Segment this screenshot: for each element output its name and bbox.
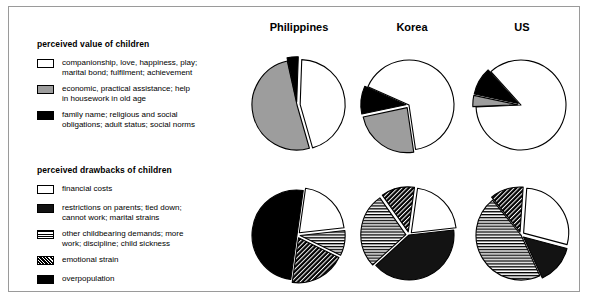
figure-frame: perceived value of children companionshi… [8, 6, 580, 292]
legend-label-family-name: family name; religious and social obliga… [62, 110, 195, 129]
legend-label-childbearing: other childbearing demands; more work; d… [62, 229, 183, 248]
swatch-restrictions-icon [37, 204, 54, 213]
legend-title-drawbacks: perceived drawbacks of children [37, 165, 237, 175]
swatch-emotional-strain-icon [37, 256, 54, 265]
pie-chart-philippines-value [247, 55, 347, 155]
legend-item-financial-costs: financial costs [37, 184, 237, 194]
legend-item-restrictions: restrictions on parents; tied down; cann… [37, 203, 237, 222]
pie-slice [300, 60, 345, 148]
pie-slice [411, 188, 456, 233]
pie-chart-us-value [471, 55, 571, 155]
pie-slice [299, 188, 344, 233]
legend-item-childbearing: other childbearing demands; more work; d… [37, 229, 237, 248]
legend-label-financial-costs: financial costs [62, 184, 112, 194]
legend-perceived-value: perceived value of children companionshi… [37, 39, 237, 137]
column-title-philippines: Philippines [244, 21, 354, 33]
legend-label-companionship: companionship, love, happiness, play; ma… [62, 58, 197, 77]
legend-item-emotional-strain: emotional strain [37, 255, 237, 265]
legend-label-economic: economic, practical assistance; help in … [62, 84, 190, 103]
pie-chart-korea-drawbacks [359, 185, 459, 285]
pie-chart-us-drawbacks [471, 185, 571, 285]
legend-item-companionship: companionship, love, happiness, play; ma… [37, 58, 237, 77]
column-title-korea: Korea [357, 21, 467, 33]
legend-label-restrictions: restrictions on parents; tied down; cann… [62, 203, 182, 222]
pie-slice [363, 108, 414, 153]
legend-item-overpopulation: overpopulation [37, 274, 237, 284]
pie-chart-philippines-drawbacks [247, 185, 347, 285]
swatch-childbearing-icon [37, 230, 54, 239]
swatch-economic-icon [37, 85, 54, 94]
legend-label-emotional-strain: emotional strain [62, 255, 118, 265]
legend-label-overpopulation: overpopulation [62, 274, 114, 284]
legend-item-economic: economic, practical assistance; help in … [37, 84, 237, 103]
legend-item-family-name: family name; religious and social obliga… [37, 110, 237, 129]
legend-title-value: perceived value of children [37, 39, 237, 49]
pie-slice [524, 188, 569, 244]
swatch-financial-costs-icon [37, 185, 54, 194]
pie-chart-korea-value [359, 55, 459, 155]
swatch-family-name-icon [37, 111, 54, 120]
figure-panel: perceived value of children companionshi… [0, 0, 600, 306]
swatch-companionship-icon [37, 59, 54, 68]
legend-perceived-drawbacks: perceived drawbacks of children financia… [37, 165, 237, 291]
swatch-overpopulation-icon [37, 275, 54, 284]
column-title-us: US [467, 21, 577, 33]
